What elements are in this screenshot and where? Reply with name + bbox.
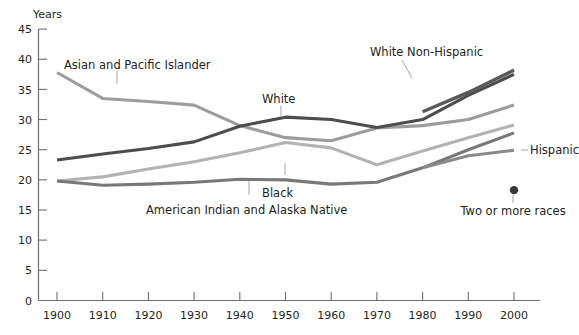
american-indian-and-alaska-native-label: American Indian and Alaska Native [146, 203, 347, 217]
white-label: White [262, 92, 295, 106]
data-point-two-or-more-races [510, 186, 518, 194]
x-axis-ticks [57, 292, 514, 301]
x-tick-label: 1920 [134, 309, 162, 322]
y-tick-label: 0 [25, 295, 32, 308]
x-tick-label: 1900 [43, 309, 71, 322]
line-chart: Years 45 40 35 30 25 20 15 10 5 0 [0, 0, 579, 335]
y-axis-tick-labels: 45 40 35 30 25 20 15 10 5 0 [18, 23, 32, 307]
y-tick-label: 35 [18, 84, 32, 97]
x-tick-label: 1960 [317, 309, 345, 322]
chart-container: Years 45 40 35 30 25 20 15 10 5 0 [0, 0, 579, 335]
y-tick-label: 40 [18, 53, 32, 66]
series-line-white-non-hispanic [423, 70, 514, 112]
series-line-white [57, 74, 514, 160]
x-tick-label: 2000 [500, 309, 528, 322]
y-tick-label: 25 [18, 144, 32, 157]
y-axis-title: Years [32, 8, 62, 21]
x-axis-tick-labels: 1900 1910 1920 1930 1940 1950 1960 1970 … [43, 309, 528, 322]
x-tick-label: 1930 [180, 309, 208, 322]
y-tick-label: 5 [25, 264, 32, 277]
points-layer [510, 186, 518, 194]
x-tick-label: 1910 [89, 309, 117, 322]
y-tick-label: 20 [18, 174, 32, 187]
x-tick-label: 1940 [226, 309, 254, 322]
series-line-american-indian-and-alaska-native [57, 133, 514, 185]
y-axis-ticks [39, 29, 48, 270]
series-line-hispanic [423, 150, 514, 167]
two-or-more-races-label: Two or more races [459, 204, 565, 218]
series-line-black [57, 125, 514, 181]
x-tick-label: 1990 [454, 309, 482, 322]
white-non-hispanic-label: White Non-Hispanic [370, 45, 483, 59]
y-tick-label: 15 [18, 204, 32, 217]
x-tick-label: 1950 [272, 309, 300, 322]
x-tick-label: 1980 [409, 309, 437, 322]
y-tick-label: 30 [18, 114, 32, 127]
x-tick-label: 1970 [363, 309, 391, 322]
y-tick-label: 45 [18, 23, 32, 36]
black-label: Black [262, 186, 293, 200]
y-tick-label: 10 [18, 234, 32, 247]
asian-and-pacific-islander-label: Asian and Pacific Islander [64, 58, 211, 72]
series-layer [57, 70, 514, 185]
hispanic-label: Hispanic [530, 143, 579, 157]
white-non-hispanic-label-leader [402, 60, 412, 78]
